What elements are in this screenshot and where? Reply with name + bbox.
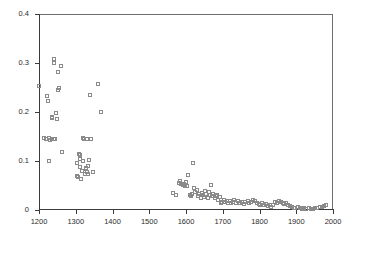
data-point [79, 177, 83, 181]
x-axis-tick-label: 1700 [203, 218, 243, 226]
y-axis-tick-label: 0.3 [0, 59, 29, 67]
x-axis-tick [186, 210, 187, 214]
y-axis-tick [35, 14, 39, 15]
data-point [45, 94, 49, 98]
x-axis-tick [113, 210, 114, 214]
x-axis-tick [260, 210, 261, 214]
x-axis-tick [39, 210, 40, 214]
scatter-chart-figure: 00.10.20.30.4 12001300140015001600170018… [0, 0, 365, 255]
data-point [37, 84, 41, 88]
data-point [185, 184, 189, 188]
data-point [52, 61, 56, 65]
data-point [60, 150, 64, 154]
data-point [81, 159, 85, 163]
x-axis-tick [223, 210, 224, 214]
data-point [87, 158, 91, 162]
y-axis-line [39, 14, 40, 211]
x-axis-tick-label: 1500 [129, 218, 169, 226]
y-axis-tick [35, 161, 39, 162]
data-point [89, 137, 93, 141]
data-point [54, 111, 58, 115]
data-point [88, 93, 92, 97]
data-point [57, 86, 61, 90]
y-axis-tick-label: 0.2 [0, 108, 29, 116]
data-point [91, 170, 95, 174]
data-point [46, 99, 50, 103]
x-axis-tick-label: 1800 [240, 218, 280, 226]
data-point [324, 203, 328, 207]
x-axis-tick-label: 2000 [313, 218, 353, 226]
x-axis-tick [76, 210, 77, 214]
y-axis-tick-label: 0.1 [0, 157, 29, 165]
x-axis-tick-label: 1200 [19, 218, 59, 226]
x-axis-tick [296, 210, 297, 214]
data-point [56, 70, 60, 74]
data-point [59, 64, 63, 68]
y-axis-tick-label: 0 [0, 206, 29, 214]
data-point [174, 193, 178, 197]
y-axis-tick [35, 112, 39, 113]
plot-frame-right [332, 14, 333, 210]
x-axis-tick-label: 1300 [56, 218, 96, 226]
data-point [50, 116, 54, 120]
data-point [86, 164, 90, 168]
x-axis-tick [149, 210, 150, 214]
data-point [53, 137, 57, 141]
x-axis-tick-label: 1400 [93, 218, 133, 226]
data-point [96, 82, 100, 86]
data-point [209, 183, 213, 187]
x-axis-tick-label: 1600 [166, 218, 206, 226]
data-point [186, 173, 190, 177]
plot-frame-top [39, 14, 333, 15]
plot-area [39, 14, 333, 210]
y-axis-tick-label: 0.4 [0, 10, 29, 18]
x-axis-tick [333, 210, 334, 214]
data-point [99, 110, 103, 114]
x-axis-tick-label: 1900 [276, 218, 316, 226]
data-point [55, 117, 59, 121]
data-point [47, 159, 51, 163]
data-point [191, 161, 195, 165]
y-axis-tick [35, 63, 39, 64]
